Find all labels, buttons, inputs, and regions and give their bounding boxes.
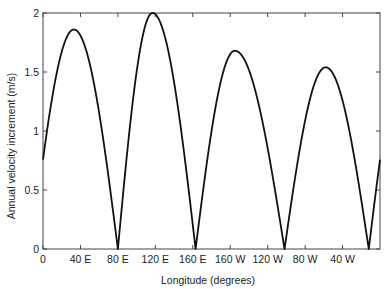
x-tick-label: 160 E <box>179 253 206 265</box>
x-tick-label: 160 W <box>215 253 245 265</box>
y-tick-label: 1.5 <box>24 66 39 78</box>
y-tick-label: 2 <box>33 7 39 19</box>
x-axis-title: Longitude (degrees) <box>161 274 255 286</box>
velocity-curve <box>43 13 380 249</box>
x-tick-labels: 040 E80 E120 E160 E160 W120 W80 W40 W <box>40 253 355 265</box>
y-tick-label: 0 <box>33 243 39 255</box>
x-tick-label: 80 E <box>107 253 129 265</box>
x-tick-label: 40 W <box>330 253 355 265</box>
x-tick-label: 120 E <box>142 253 169 265</box>
y-tick-label: 0.5 <box>24 184 39 196</box>
x-tick-label: 0 <box>40 253 46 265</box>
y-axis-title: Annual velocity increment (m/s) <box>5 73 17 219</box>
y-tick-labels: 00.511.52 <box>24 7 39 255</box>
x-tick-label: 40 E <box>70 253 92 265</box>
x-tick-label: 120 W <box>252 253 282 265</box>
y-tick-label: 1 <box>33 125 39 137</box>
x-tick-label: 80 W <box>293 253 318 265</box>
velocity-longitude-chart: 040 E80 E120 E160 E160 W120 W80 W40 W 00… <box>0 0 388 289</box>
